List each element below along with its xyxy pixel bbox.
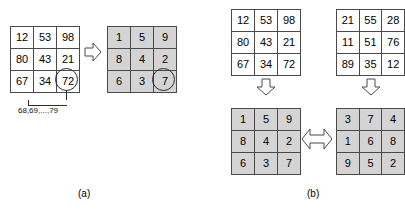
grid-cell: 11: [337, 32, 360, 54]
table-row: 12 53 98: [11, 27, 80, 49]
grid-cell: 6: [359, 131, 382, 153]
table-row: 1 5 9: [108, 27, 177, 49]
panel-b-block-two-values-grid: 21 55 28 11 51 76 89 35 12: [336, 9, 405, 76]
table-row: 80 43 21: [11, 49, 80, 71]
grid-cell: 8: [232, 131, 255, 153]
panel-a-original-values-grid: 12 53 98 80 43 21 67 34 72: [10, 26, 80, 93]
table-row: 89 35 12: [337, 54, 405, 76]
grid-cell: 55: [359, 10, 382, 32]
grid-cell: 89: [337, 54, 360, 76]
grid-cell: 43: [34, 49, 57, 71]
grid-cell: 98: [278, 10, 301, 32]
grid-cell: 34: [255, 54, 278, 76]
panel-b-block-one-rank-grid: 1 5 9 8 4 2 6 3 7: [231, 108, 301, 175]
grid-cell: 7: [278, 153, 301, 175]
panel-a-right-arrow: [84, 42, 102, 62]
table-row: 67 34 72: [232, 54, 301, 76]
table-row: 21 55 28: [337, 10, 405, 32]
grid-cell: 12: [232, 10, 255, 32]
grid-cell: 35: [359, 54, 382, 76]
table-row: 67 34 72: [11, 71, 80, 93]
grid-cell: 21: [337, 10, 360, 32]
panel-b-block-one-values-grid: 12 53 98 80 43 21 67 34 72: [231, 9, 301, 76]
grid-cell: 72: [278, 54, 301, 76]
leader-stub: [66, 90, 67, 100]
grid-cell: 43: [255, 32, 278, 54]
panel-b-bidirectional-arrow: [301, 128, 333, 150]
grid-cell: 2: [154, 49, 177, 71]
grid-cell: 8: [108, 49, 131, 71]
panel-b-block-two-rank-grid: 3 7 4 1 6 8 9 5 2: [336, 108, 405, 175]
table-row: 9 5 2: [337, 153, 405, 175]
table-row: 1 6 8: [337, 131, 405, 153]
grid-cell: 21: [57, 49, 80, 71]
grid-cell: 5: [359, 153, 382, 175]
grid-cell: 7: [359, 109, 382, 131]
grid-cell: 98: [57, 27, 80, 49]
grid-cell: 72: [57, 71, 80, 93]
caption-a: (a): [78, 189, 90, 199]
grid-cell: 51: [359, 32, 382, 54]
grid-cell: 9: [154, 27, 177, 49]
grid-cell: 3: [337, 109, 360, 131]
grid-cell: 67: [232, 54, 255, 76]
grid-cell: 28: [382, 10, 405, 32]
grid-cell: 8: [382, 131, 405, 153]
range-label: 68,69,...,79: [18, 107, 58, 115]
grid-cell: 34: [34, 71, 57, 93]
table-row: 1 5 9: [232, 109, 301, 131]
grid-cell: 53: [34, 27, 57, 49]
table-row: 3 7 4: [337, 109, 405, 131]
grid-cell: 80: [11, 49, 34, 71]
grid-cell: 5: [131, 27, 154, 49]
grid-cell: 80: [232, 32, 255, 54]
table-row: 8 4 2: [108, 49, 177, 71]
caption-b: (b): [307, 189, 319, 199]
grid-cell: 53: [255, 10, 278, 32]
table-row: 6 3 7: [108, 71, 177, 93]
grid-cell: 2: [382, 153, 405, 175]
panel-b-down-arrow-right: [361, 78, 381, 96]
grid-cell: 12: [382, 54, 405, 76]
grid-cell: 6: [232, 153, 255, 175]
table-row: 12 53 98: [232, 10, 301, 32]
grid-cell: 1: [337, 131, 360, 153]
panel-a-rank-values-grid: 1 5 9 8 4 2 6 3 7: [107, 26, 177, 93]
grid-cell: 7: [154, 71, 177, 93]
grid-cell: 4: [131, 49, 154, 71]
table-row: 80 43 21: [232, 32, 301, 54]
grid-cell: 67: [11, 71, 34, 93]
grid-cell: 4: [255, 131, 278, 153]
grid-cell: 1: [232, 109, 255, 131]
panel-b-down-arrow-left: [256, 78, 276, 96]
grid-cell: 76: [382, 32, 405, 54]
grid-cell: 6: [108, 71, 131, 93]
grid-cell: 5: [255, 109, 278, 131]
grid-cell: 21: [278, 32, 301, 54]
grid-cell: 3: [255, 153, 278, 175]
grid-cell: 9: [278, 109, 301, 131]
table-row: 8 4 2: [232, 131, 301, 153]
grid-cell: 12: [11, 27, 34, 49]
figure-canvas: 12 53 98 80 43 21 67 34 72 68,69,...,79 …: [0, 0, 405, 219]
table-row: 11 51 76: [337, 32, 405, 54]
table-row: 6 3 7: [232, 153, 301, 175]
grid-cell: 4: [382, 109, 405, 131]
grid-cell: 1: [108, 27, 131, 49]
grid-cell: 3: [131, 71, 154, 93]
grid-cell: 2: [278, 131, 301, 153]
grid-cell: 9: [337, 153, 360, 175]
